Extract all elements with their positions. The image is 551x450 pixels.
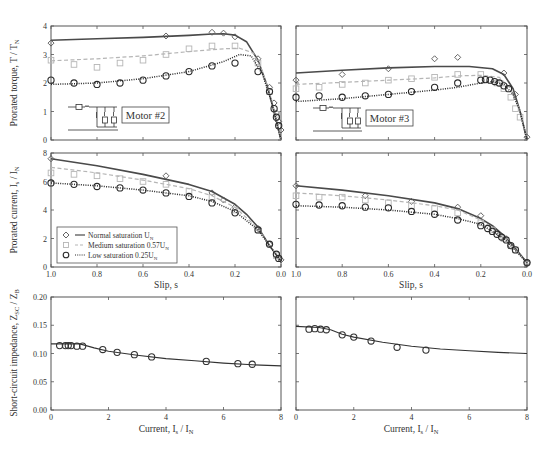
y-tick-label: 0	[43, 136, 47, 145]
svg-text:Low saturation 0.25UN: Low saturation 0.25UN	[88, 251, 158, 261]
panel-impedance-motor2: 024680.000.050.100.150.20	[33, 293, 283, 422]
square-marker-icon	[432, 206, 438, 212]
y-tick-label: 4	[43, 206, 47, 215]
x-tick-label: 1.0	[291, 270, 301, 279]
svg-text:Motor #3: Motor #3	[370, 113, 409, 124]
circle-marker-icon	[209, 200, 215, 206]
slip-xlabel-left: Slip, s	[154, 280, 178, 290]
circuit-diagram-icon-motor3	[313, 106, 362, 132]
diamond-marker-icon	[339, 71, 345, 77]
y-tick-label: 0.20	[33, 293, 47, 302]
y-tick-label: 0.05	[33, 378, 47, 387]
svg-text:Normal saturation UN: Normal saturation UN	[88, 231, 154, 241]
square-marker-icon	[478, 72, 484, 78]
series-line	[51, 34, 281, 140]
svg-text:Motor #2: Motor #2	[126, 110, 165, 121]
x-tick-label: 6	[222, 413, 226, 422]
y-tick-label: 3	[43, 51, 47, 60]
plot-frame	[296, 153, 527, 267]
y-tick-label: 0.10	[33, 350, 47, 359]
current-xlabel-right: Current, Is / IN	[384, 424, 439, 435]
square-marker-icon	[316, 194, 322, 200]
panel-current-motor3: 1.00.80.60.40.20.0	[291, 153, 532, 279]
x-tick-label: 0	[294, 413, 298, 422]
square-marker-icon	[513, 106, 519, 112]
circle-marker-icon	[432, 84, 438, 90]
svg-text:Medium saturation 0.57UN: Medium saturation 0.57UN	[88, 241, 169, 251]
circle-marker-icon	[316, 93, 322, 99]
y-tick-label: 6	[43, 178, 47, 187]
x-tick-label: 0.2	[476, 270, 486, 279]
square-marker-icon	[409, 203, 415, 209]
panel-impedance-motor3: 02468	[294, 297, 529, 422]
current-xlabel-left: Current, Is / IN	[139, 424, 194, 435]
x-tick-label: 0.6	[383, 270, 393, 279]
y-tick-label: 4	[43, 22, 47, 31]
series-line	[296, 326, 527, 353]
current-ylabel: Prorated current, Is / IN	[9, 166, 20, 253]
x-tick-label: 4	[164, 413, 168, 422]
circle-marker-icon	[455, 217, 461, 223]
x-tick-label: 8	[279, 413, 283, 422]
square-marker-icon	[94, 173, 100, 179]
x-tick-label: 0.6	[138, 270, 148, 279]
x-tick-label: 2	[107, 413, 111, 422]
circle-marker-icon	[209, 63, 215, 69]
square-marker-icon	[140, 57, 146, 63]
series-line	[51, 55, 281, 141]
y-tick-label: 1	[43, 108, 47, 117]
y-tick-label: 0	[43, 263, 47, 272]
x-tick-label: 0.2	[230, 270, 240, 279]
diamond-marker-icon	[455, 54, 461, 60]
impedance-ylabel: Short-circuit impedance, ZSC / ZB	[9, 289, 20, 417]
figure: 012341.00.80.60.40.20.0024681.00.80.60.4…	[0, 0, 551, 450]
square-marker-icon	[316, 84, 322, 90]
plot-frame	[296, 297, 527, 410]
series-line	[296, 186, 527, 263]
square-marker-icon	[71, 172, 77, 178]
y-tick-label: 2	[43, 235, 47, 244]
diamond-marker-icon	[163, 173, 169, 179]
circle-marker-icon	[255, 69, 261, 75]
x-tick-label: 0.4	[430, 270, 440, 279]
y-tick-label: 2	[43, 79, 47, 88]
x-tick-label: 6	[467, 413, 471, 422]
motor2-label: Motor #2	[122, 107, 169, 123]
x-tick-label: 2	[352, 413, 356, 422]
y-tick-label: 0.00	[33, 406, 47, 415]
square-marker-icon	[71, 62, 77, 68]
x-tick-label: 0.0	[522, 270, 532, 279]
slip-xlabel-right: Slip, s	[399, 280, 423, 290]
square-marker-icon	[94, 65, 100, 71]
x-tick-label: 0.4	[184, 270, 194, 279]
x-tick-label: 0.8	[92, 270, 102, 279]
x-tick-label: 0	[49, 413, 53, 422]
circle-marker-icon	[232, 60, 238, 66]
square-marker-icon	[186, 46, 192, 52]
x-tick-label: 1.0	[46, 270, 56, 279]
y-tick-label: 8	[43, 149, 47, 158]
x-tick-label: 0.0	[276, 270, 286, 279]
torque-ylabel: Prorated torque, T / TN	[9, 39, 20, 126]
circuit-diagram-icon-motor2	[68, 105, 118, 131]
x-tick-label: 4	[410, 413, 414, 422]
square-marker-icon	[117, 60, 123, 66]
circle-marker-icon	[394, 344, 400, 350]
x-tick-label: 8	[525, 413, 529, 422]
motor3-label: Motor #3	[366, 110, 413, 126]
diamond-marker-icon	[432, 56, 438, 62]
circle-marker-icon	[455, 80, 461, 86]
x-tick-label: 0.8	[337, 270, 347, 279]
panel-torque-motor2: 01234	[43, 22, 284, 145]
square-marker-icon	[209, 43, 215, 49]
plot-frame	[51, 297, 281, 410]
legend: Normal saturation UN Medium saturation 0…	[57, 227, 177, 263]
y-tick-label: 0.15	[33, 321, 47, 330]
series-line	[51, 48, 281, 140]
